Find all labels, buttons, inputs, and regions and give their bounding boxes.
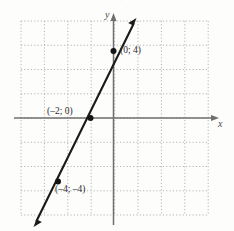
graph-figure: · · · · · ·	[0, 0, 234, 231]
point-label-neg4-neg4: (–4; –4)	[55, 184, 85, 194]
point-label-0-4: (0; 4)	[120, 45, 141, 55]
point-label-neg2-0: (–2; 0)	[47, 106, 73, 116]
coordinate-plane	[0, 0, 234, 231]
y-axis	[111, 13, 117, 225]
y-axis-label: y	[105, 9, 109, 20]
x-axis-label: x	[218, 118, 222, 129]
point-marker	[88, 115, 94, 121]
point-marker	[111, 48, 117, 54]
